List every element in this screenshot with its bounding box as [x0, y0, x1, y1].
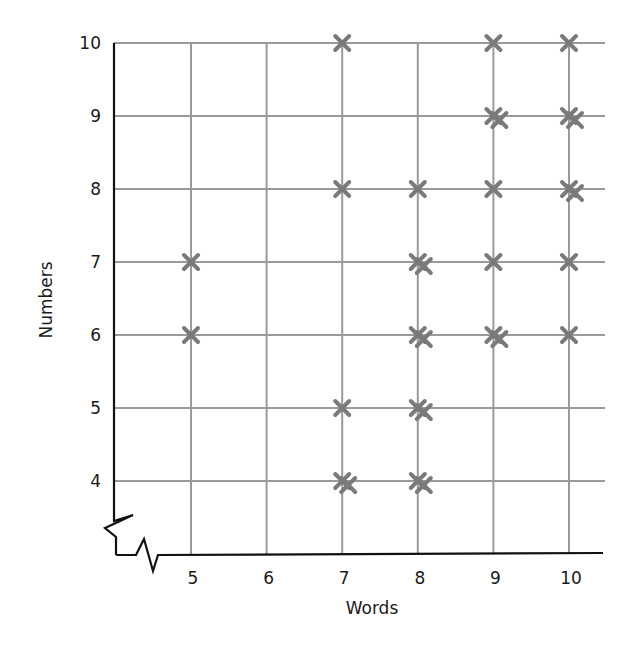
y-tick-label: 6: [90, 325, 101, 345]
y-tick-label: 5: [90, 398, 101, 418]
x-tick-label: 6: [263, 568, 274, 588]
data-markers: [184, 36, 582, 492]
x-axis-line: [116, 539, 603, 571]
y-tick-labels: 45678910: [79, 33, 101, 491]
x-tick-label: 8: [414, 568, 425, 588]
x-tick-labels: 5678910: [188, 568, 582, 588]
x-tick-label: 5: [188, 568, 199, 588]
grid-lines: [114, 43, 605, 554]
x-tick-label: 10: [560, 568, 582, 588]
y-axis-label: Numbers: [36, 261, 56, 338]
y-tick-label: 8: [90, 179, 101, 199]
y-tick-label: 10: [79, 33, 101, 53]
y-tick-label: 9: [90, 106, 101, 126]
y-tick-label: 7: [90, 252, 101, 272]
scatter-plot: 45678910 5678910 Words Numbers: [0, 0, 635, 654]
y-axis-line: [105, 43, 133, 555]
y-tick-label: 4: [90, 471, 101, 491]
x-tick-label: 7: [339, 568, 350, 588]
x-axis-label: Words: [346, 598, 399, 618]
x-tick-label: 9: [490, 568, 501, 588]
